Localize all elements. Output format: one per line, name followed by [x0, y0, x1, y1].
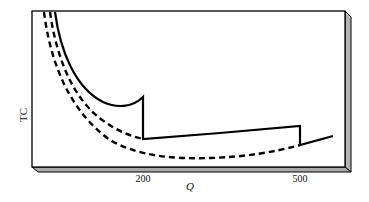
x-axis-label: Q — [186, 180, 194, 192]
x-tick-label-200: 200 — [136, 173, 151, 184]
y-axis-label: TC — [17, 108, 29, 122]
frame-bottom-panel — [32, 167, 351, 172]
tc-chart: 200 500 Q TC — [0, 0, 369, 202]
x-tick-label-500: 500 — [293, 173, 308, 184]
frame-side-panel — [345, 11, 351, 172]
plot-frame — [32, 11, 345, 167]
